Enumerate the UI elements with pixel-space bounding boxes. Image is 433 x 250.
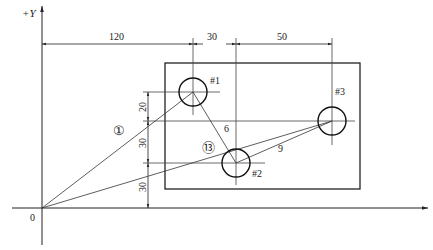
horizontal-centerlines xyxy=(143,92,355,163)
dim-30-upper: 30 xyxy=(137,138,148,148)
path-label-13: ⑬ xyxy=(202,140,215,155)
dim-30-horizontal: 30 xyxy=(207,31,217,42)
path-label-6: 6 xyxy=(224,123,229,134)
path-label-9: 9 xyxy=(278,143,283,154)
dim-20: 20 xyxy=(137,102,148,112)
drilling-diagram: +Y 0 120 30 50 20 30 30 xyxy=(0,0,433,250)
path-origin-to-hole1 xyxy=(42,92,193,208)
path-hole2-to-hole3 xyxy=(236,121,332,163)
y-axis-label: +Y xyxy=(22,7,37,19)
holes xyxy=(179,78,346,177)
origin-label: 0 xyxy=(30,212,35,223)
workpiece-outline xyxy=(165,63,360,189)
dim-50: 50 xyxy=(277,31,287,42)
tool-paths xyxy=(42,92,332,208)
path-label-1: ① xyxy=(113,123,125,138)
dim-30-lower: 30 xyxy=(137,182,148,192)
hole-1-label: #1 xyxy=(210,75,220,86)
dim-120: 120 xyxy=(109,31,124,42)
hole-2-label: #2 xyxy=(252,168,262,179)
path-hole3-to-origin xyxy=(42,121,332,208)
hole-3-label: #3 xyxy=(335,86,345,97)
